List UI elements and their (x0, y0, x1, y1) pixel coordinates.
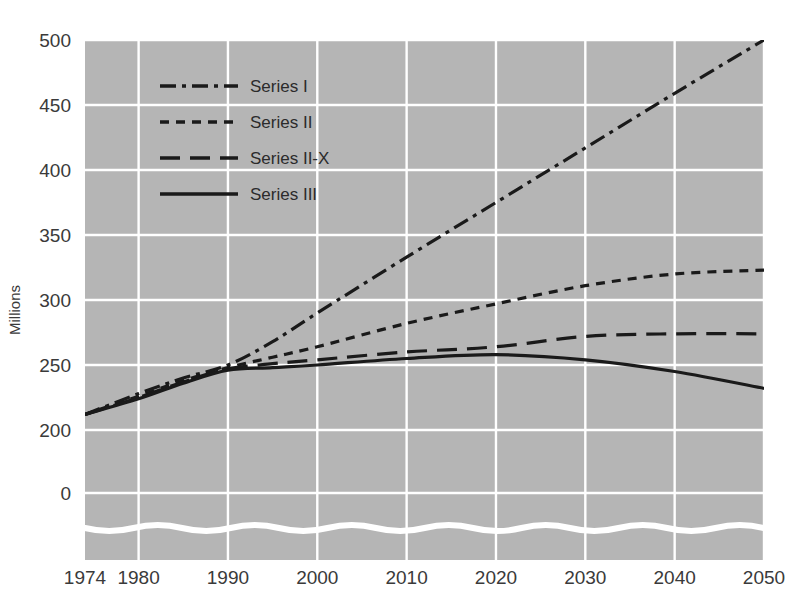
legend-label-4: Series III (250, 185, 317, 204)
y-tick-label: 0 (60, 483, 71, 504)
y-axis-tick-labels: 5004504003503002502000 (39, 30, 71, 504)
x-axis-tick-labels: 197419801990200020102020203020402050 (64, 567, 785, 588)
y-axis-title: Millions (6, 285, 23, 335)
x-tick-label: 1974 (64, 567, 107, 588)
y-axis-title-text: Millions (6, 285, 23, 335)
y-tick-label: 250 (39, 355, 71, 376)
y-tick-label: 300 (39, 290, 71, 311)
chart-plot-area: 5004504003503002502000 19741980199020002… (0, 0, 796, 610)
x-tick-label: 2040 (654, 567, 696, 588)
x-tick-label: 1990 (207, 567, 249, 588)
y-tick-label: 200 (39, 420, 71, 441)
x-tick-label: 1980 (117, 567, 159, 588)
legend-label-1: Series I (250, 77, 308, 96)
x-tick-label: 2050 (743, 567, 785, 588)
x-tick-label: 2030 (564, 567, 606, 588)
chart-figure: 5004504003503002502000 19741980199020002… (0, 0, 796, 610)
x-tick-label: 2010 (385, 567, 427, 588)
y-tick-label: 500 (39, 30, 71, 51)
x-tick-label: 2000 (296, 567, 338, 588)
legend-label-2: Series II (250, 113, 312, 132)
y-tick-label: 450 (39, 95, 71, 116)
y-tick-label: 350 (39, 225, 71, 246)
y-tick-label: 400 (39, 160, 71, 181)
x-tick-label: 2020 (475, 567, 517, 588)
legend-label-3: Series II-X (250, 149, 329, 168)
